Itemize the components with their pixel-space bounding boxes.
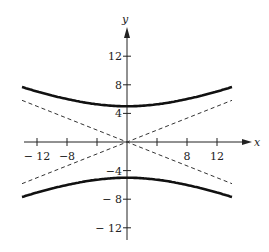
y-tick-label: 8: [115, 79, 122, 92]
x-tick-label: 12: [210, 150, 224, 163]
x-axis-label: x: [254, 136, 261, 149]
x-tick-label: 8: [184, 150, 191, 163]
y-tick-label: 4: [115, 107, 122, 120]
x-tick-label: −8: [59, 150, 75, 163]
y-tick-label: −4: [106, 165, 122, 178]
x-tick-label: − 12: [24, 150, 51, 163]
y-tick-label: − 8: [102, 193, 122, 206]
y-axis-arrow-icon: [124, 27, 130, 38]
y-tick-label: 12: [108, 50, 122, 63]
y-axis-label: y: [121, 13, 129, 26]
y-tick-label: − 12: [95, 222, 122, 235]
hyperbola-chart: xy− 12−88121284−4− 8− 12: [0, 0, 269, 252]
plot-area: xy− 12−88121284−4− 8− 12: [0, 0, 269, 252]
x-axis-arrow-icon: [242, 139, 252, 145]
